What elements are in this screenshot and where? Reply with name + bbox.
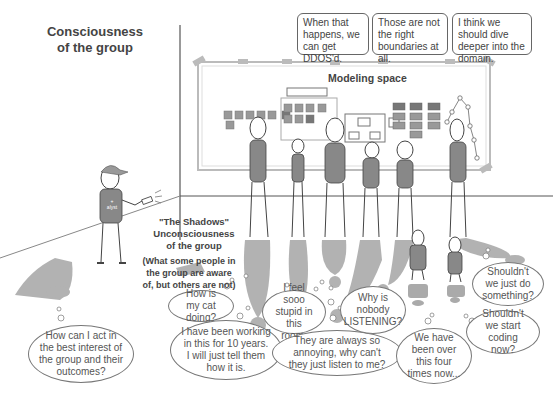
shadows-note: (What some people in the group are aware… [134, 255, 244, 291]
title-line1: Consciousness [45, 24, 145, 40]
thought-bubble-10-years: I have been working in this for 10 years… [170, 320, 282, 380]
thought-bubble-cat: How is my cat doing? [168, 290, 234, 322]
shadows-line2: Unconsciousness [144, 228, 244, 240]
speech-bubble-boundaries: Those are not the right boundaries at al… [372, 13, 448, 55]
thought-bubble-listening: Why is nobody LISTENING? [340, 286, 406, 334]
speech-bubble-ddos: When that happens, we can get DDOS'd. [297, 13, 369, 55]
thought-bubble-do-something: Shouldn't we just do something? [472, 262, 544, 306]
consciousness-title: Consciousness of the group [45, 24, 145, 56]
shadows-line3: of the group [144, 240, 244, 252]
thought-bubble-annoying: They are always so annoying, why can't t… [272, 330, 402, 376]
shadows-note-line1: (What some people in [134, 255, 244, 267]
thought-bubble-four-times: We have been over this four times now... [396, 328, 472, 384]
speech-bubble-dive-deeper: I think we should dive deeper into the d… [452, 13, 532, 55]
thought-bubble-stupid: I feel sooo stupid in this room. [262, 290, 326, 334]
shadows-note-line2: the group are aware [134, 267, 244, 279]
title-line2: of the group [45, 40, 145, 56]
thought-bubble-start-coding: Shouldn't we start coding now? [466, 310, 540, 354]
analyst-shirt-line2: alyst [103, 204, 121, 210]
analyst-shirt-text: + alyst [103, 198, 121, 210]
shadows-label: "The Shadows" Unconsciousness of the gro… [144, 216, 244, 252]
modeling-space-label: Modeling space [328, 72, 407, 84]
thought-bubble-analyst: How can I act in the best interest of th… [28, 325, 134, 383]
shadows-line1: "The Shadows" [144, 216, 244, 228]
